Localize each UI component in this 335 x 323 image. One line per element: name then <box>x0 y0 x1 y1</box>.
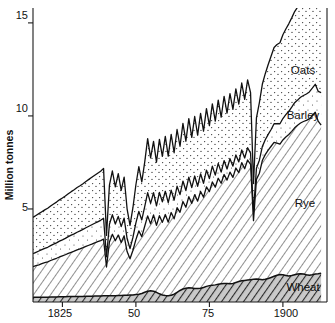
y-axis-title: Million tonnes <box>3 130 15 201</box>
series-label-wheat: Wheat <box>286 281 320 293</box>
chart-container: 15 10 5 1825 50 75 1900 Million tonnes O… <box>0 0 335 323</box>
x-tick-marks <box>62 302 283 307</box>
y-tick-label-15: 15 <box>16 9 28 21</box>
series-label-oats: Oats <box>291 64 316 76</box>
y-tick-marks <box>28 23 33 209</box>
x-tick-label-75: 75 <box>202 307 214 319</box>
x-tick-label-1900: 1900 <box>274 307 298 319</box>
y-tick-label-5: 5 <box>22 201 28 213</box>
x-tick-label-50: 50 <box>128 307 140 319</box>
series-label-barley: Barley <box>287 109 320 121</box>
y-tick-label-10: 10 <box>16 102 28 114</box>
series-label-rye: Rye <box>295 197 315 209</box>
chart-bands <box>33 0 321 302</box>
x-tick-label-1825: 1825 <box>48 307 72 319</box>
stacked-area-chart: 15 10 5 1825 50 75 1900 Million tonnes O… <box>0 0 335 323</box>
